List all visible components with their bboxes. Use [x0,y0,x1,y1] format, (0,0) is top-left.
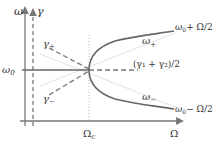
average-damping-label: (γ₁ + γ₂)/2 [133,59,180,69]
gamma-plus-label: γ+ [43,38,55,51]
omega-x-axis-label: Ω [170,128,178,139]
lower-asymptote-label: ω0− Ω/2 [175,104,213,115]
gamma-axis-label: γ [37,5,44,18]
critical-omega-label: Ωc [83,128,95,141]
omega0-tick-label: ω0 [2,64,15,77]
upper-asymptote-label: ω0+ Ω/2 [175,22,213,33]
exceptional-point-diagram: ω γ ω0 γ+ γ− ω+ ω− (γ₁ + γ₂)/2 ω0+ Ω/2 ω… [0,0,223,147]
omega-minus-label: ω− [142,91,156,104]
omega-plus-label: ω+ [142,35,156,49]
omega-axis-label: ω [14,5,23,18]
